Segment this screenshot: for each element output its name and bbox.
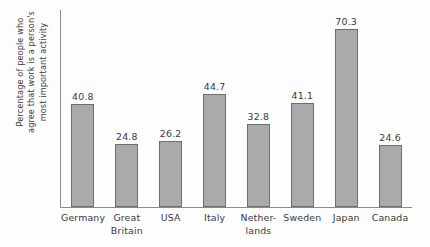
x-tick-label-line: Nether- xyxy=(237,211,281,224)
x-tick-label-line: Britain xyxy=(105,224,149,237)
bar-value-label: 32.8 xyxy=(248,111,270,122)
bar-group: 70.3 xyxy=(335,10,358,207)
bar-value-label: 44.7 xyxy=(204,81,226,92)
bar[interactable] xyxy=(115,144,138,207)
bar-group: 40.8 xyxy=(71,10,94,207)
x-tick-label-line: Canada xyxy=(368,211,412,224)
bar-value-label: 26.2 xyxy=(160,128,182,139)
x-tick-label: Canada xyxy=(368,211,412,224)
bar-group: 26.2 xyxy=(159,10,182,207)
bar-value-label: 41.1 xyxy=(291,90,313,101)
bar-group: 24.8 xyxy=(115,10,138,207)
bar[interactable] xyxy=(71,104,94,207)
bar[interactable] xyxy=(159,141,182,207)
x-tick-label: Sweden xyxy=(280,211,324,224)
x-tick-label: Nether-lands xyxy=(237,211,281,237)
bar-value-label: 70.3 xyxy=(335,16,357,27)
x-tick-label: USA xyxy=(149,211,193,224)
x-tick-label: Germany xyxy=(61,211,105,224)
y-axis-label-line-3: most important activity xyxy=(38,23,50,122)
bar-group: 24.6 xyxy=(379,10,402,207)
bar-chart: Percentage of people who agree that work… xyxy=(0,0,430,247)
y-axis-label: Percentage of people who agree that work… xyxy=(10,0,54,157)
x-axis-line xyxy=(60,207,412,208)
x-tick-label-line: Great xyxy=(105,211,149,224)
bar-group: 44.7 xyxy=(203,10,226,207)
bar[interactable] xyxy=(379,145,402,207)
bar[interactable] xyxy=(291,103,314,207)
bar-group: 41.1 xyxy=(291,10,314,207)
x-axis-tick-labels: GermanyGreatBritainUSAItalyNether-landsS… xyxy=(61,211,412,245)
bar-group: 32.8 xyxy=(247,10,270,207)
x-tick-label-line: Germany xyxy=(61,211,105,224)
bar[interactable] xyxy=(247,124,270,207)
bar-value-label: 24.8 xyxy=(116,131,138,142)
x-tick-label-line: Japan xyxy=(324,211,368,224)
bar-value-label: 40.8 xyxy=(72,91,94,102)
x-tick-label: Italy xyxy=(193,211,237,224)
plot-area: 40.824.826.244.732.841.170.324.6 xyxy=(61,10,412,207)
x-tick-label-line: lands xyxy=(237,224,281,237)
bar[interactable] xyxy=(335,29,358,207)
bar[interactable] xyxy=(203,94,226,207)
x-tick-label: Japan xyxy=(324,211,368,224)
y-axis-label-line-2: agree that work is a person's xyxy=(26,11,38,133)
y-axis-label-line-1: Percentage of people who xyxy=(15,18,27,127)
x-tick-label-line: Sweden xyxy=(280,211,324,224)
x-tick-label-line: USA xyxy=(149,211,193,224)
x-tick-label: GreatBritain xyxy=(105,211,149,237)
x-tick-label-line: Italy xyxy=(193,211,237,224)
bar-value-label: 24.6 xyxy=(379,132,401,143)
